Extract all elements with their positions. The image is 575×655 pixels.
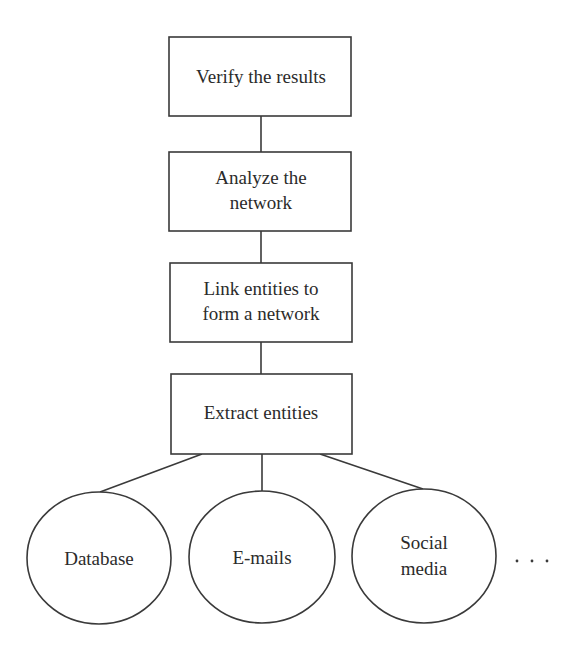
source-node-social-media: Social media: [352, 489, 496, 623]
source-label-emails: E-mails: [232, 547, 291, 568]
step-box-link: Link entities to form a network: [170, 263, 352, 342]
step-box-extract: Extract entities: [171, 374, 352, 454]
step-label-verify: Verify the results: [196, 66, 326, 87]
source-label-social-media-line1: Social: [400, 532, 448, 553]
more-sources-ellipsis-icon: [516, 560, 549, 563]
step-box-analyze: Analyze the network: [169, 152, 351, 231]
source-node-database: Database: [27, 492, 171, 624]
step-label-extract: Extract entities: [204, 402, 318, 423]
step-box-verify: Verify the results: [169, 37, 351, 116]
process-flow-diagram: Verify the results Analyze the network L…: [0, 0, 575, 655]
step-label-link-line2: form a network: [202, 303, 320, 324]
step-label-analyze-line1: Analyze the: [215, 167, 306, 188]
step-label-analyze-line2: network: [230, 192, 293, 213]
source-label-social-media-line2: media: [401, 558, 448, 579]
source-node-emails: E-mails: [189, 491, 335, 623]
connector-extract-database: [100, 454, 202, 492]
connector-extract-social-media: [320, 454, 423, 489]
step-label-link-line1: Link entities to: [203, 278, 318, 299]
source-label-database: Database: [64, 548, 134, 569]
